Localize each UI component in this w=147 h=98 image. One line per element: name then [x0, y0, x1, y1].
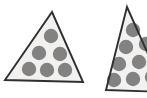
dot: [22, 62, 36, 76]
triangles-figure: [0, 0, 147, 98]
dot: [40, 63, 54, 77]
image-canvas: [0, 0, 147, 98]
dot: [32, 46, 46, 60]
dot: [126, 72, 140, 86]
dot: [119, 40, 133, 54]
dot: [132, 55, 146, 69]
dot: [44, 29, 58, 43]
dot: [58, 63, 72, 77]
dot: [53, 47, 67, 61]
